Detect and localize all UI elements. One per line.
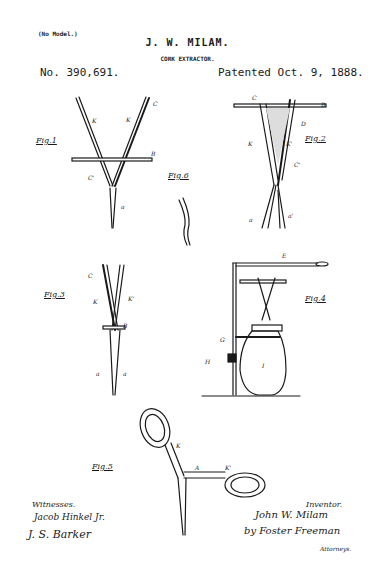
ref-letter: I [262, 362, 264, 369]
figure-1-drawing [72, 97, 152, 228]
figure-4-label: Fig.4 [305, 294, 326, 303]
ref-letter: a [249, 216, 253, 223]
figure-3-drawing [103, 265, 125, 395]
ref-letter: B [151, 150, 155, 157]
figure-5-label: Fig.5 [92, 462, 113, 471]
ref-letter: a [121, 203, 125, 210]
ref-letter: C' [294, 161, 300, 168]
attorney-label: Attorneys. [320, 545, 351, 552]
figure-4-drawing [202, 262, 328, 396]
witness-1-signature: Jacob Hinkel Jr. [34, 512, 105, 522]
figure-3-label: Fig.3 [44, 290, 65, 299]
ref-letter: K' [128, 295, 134, 302]
inventor-label: Inventor. [306, 500, 342, 509]
ref-letter: K [176, 442, 180, 449]
ref-letter: a [96, 370, 100, 377]
ref-letter: K [126, 116, 130, 123]
ref-letter: K' [225, 464, 231, 471]
figure-6-drawing [179, 198, 190, 245]
ref-letter: C [252, 94, 257, 101]
ref-letter: G [220, 336, 225, 343]
ref-letter: B [123, 322, 127, 329]
ref-letter: K [248, 140, 252, 147]
attorney-signature: by Foster Freeman [244, 525, 340, 536]
inventor-signature: John W. Milam [255, 509, 328, 520]
ref-letter: C [88, 272, 93, 279]
witness-2-signature: J. S. Barker [28, 528, 91, 541]
ref-letter: C [153, 100, 158, 107]
ref-letter: a' [288, 212, 293, 219]
witnesses-label: Witnesses. [32, 500, 75, 509]
ref-letter: H [205, 358, 210, 365]
figure-2-drawing [234, 100, 326, 228]
ref-letter: E [282, 252, 286, 259]
ref-letter: D [301, 120, 306, 127]
ref-letter: K [92, 117, 96, 124]
ref-letter: C' [88, 174, 94, 181]
ref-letter: K' [286, 140, 292, 147]
figure-2-label: Fig.2 [305, 134, 326, 143]
figure-6-label: Fig.6 [168, 171, 189, 180]
ref-letter: a [123, 370, 127, 377]
ref-letter: B [321, 101, 325, 108]
ref-letter: K [93, 298, 97, 305]
figure-1-label: Fig.1 [36, 136, 57, 145]
ref-letter: A [195, 464, 199, 471]
figure-5-drawing [135, 404, 265, 535]
